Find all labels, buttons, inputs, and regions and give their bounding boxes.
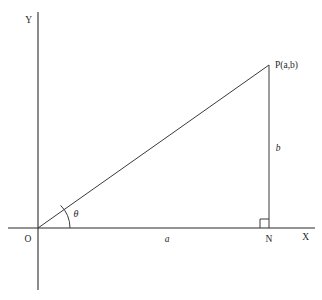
theta-label: θ bbox=[74, 208, 79, 219]
point-n-label: N bbox=[266, 234, 273, 244]
figure-root: Y X O P(a,b) N a b θ bbox=[0, 0, 322, 300]
side-b-label: b bbox=[276, 143, 281, 153]
point-p-label: P(a,b) bbox=[275, 60, 298, 71]
side-a-label: a bbox=[165, 234, 170, 244]
right-angle-marker bbox=[260, 219, 269, 228]
y-axis-label: Y bbox=[25, 15, 32, 25]
origin-label: O bbox=[25, 234, 32, 244]
geometry-diagram: Y X O P(a,b) N a b θ bbox=[0, 0, 322, 300]
hypotenuse-segment bbox=[38, 65, 269, 228]
x-axis-label: X bbox=[302, 232, 309, 242]
